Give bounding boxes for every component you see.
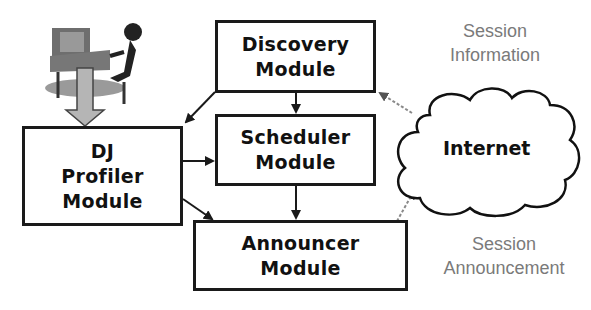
session-announcement-note: Session Announcement — [418, 232, 590, 280]
arrow-profiler-to-announcer — [183, 199, 212, 219]
arrow-internet-to-discovery — [380, 93, 412, 113]
scheduler-label-line1: Scheduler — [241, 125, 351, 150]
dj-profiler-module-box: DJ Profiler Module — [22, 126, 183, 226]
discovery-label-line2: Module — [255, 57, 335, 82]
discovery-module-box: Discovery Module — [215, 20, 376, 93]
discovery-label-line1: Discovery — [242, 32, 350, 57]
arrow-discovery-to-profiler — [186, 92, 215, 122]
session-announcement-line2: Announcement — [418, 256, 590, 280]
session-announcement-line1: Session — [418, 232, 590, 256]
dj-profiler-label-line1: DJ — [91, 139, 114, 164]
session-information-note: Session Information — [430, 19, 560, 67]
session-information-line2: Information — [430, 43, 560, 67]
scheduler-module-box: Scheduler Module — [215, 114, 376, 186]
announcer-label-line2: Module — [260, 256, 340, 281]
session-information-line1: Session — [430, 19, 560, 43]
announcer-label-line1: Announcer — [241, 231, 359, 256]
internet-label: Internet — [443, 137, 530, 159]
scheduler-label-line2: Module — [255, 150, 335, 175]
dj-profiler-label-line2: Profiler — [61, 164, 143, 189]
user-input-arrow — [66, 68, 104, 126]
dj-profiler-label-line3: Module — [62, 189, 142, 214]
announcer-module-box: Announcer Module — [193, 220, 408, 291]
